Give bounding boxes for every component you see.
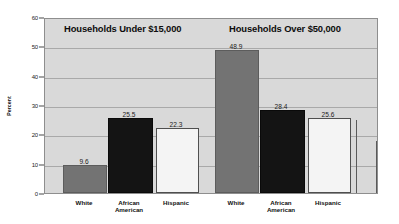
axis-separator xyxy=(376,141,377,193)
bar-right-hispanic[interactable] xyxy=(308,118,351,193)
bar-right-white[interactable] xyxy=(215,50,259,193)
category-label-left-hispanic: Hispanic xyxy=(163,199,189,206)
y-tick-label: 10 xyxy=(32,162,38,168)
gridline xyxy=(45,78,377,79)
category-text: White xyxy=(228,199,245,206)
bar-value-left-african-american: 25.5 xyxy=(123,111,136,118)
y-tick-label: 40 xyxy=(32,74,38,80)
bar-left-white[interactable] xyxy=(63,165,107,193)
panel-title-left: Households Under $15,000 xyxy=(64,23,181,34)
bar-value-right-african-american: 28.4 xyxy=(275,103,288,110)
bar-left-hispanic[interactable] xyxy=(156,128,199,193)
bar-value-left-hispanic: 22.3 xyxy=(170,121,183,128)
category-text-line1: African xyxy=(270,199,291,206)
category-label-left-white: White xyxy=(76,199,93,206)
bar-value-right-hispanic: 25.6 xyxy=(322,111,335,118)
bar-value-left-white: 9.6 xyxy=(79,158,88,165)
category-label-left-african-american: African American xyxy=(115,199,143,213)
y-axis-title: Percent xyxy=(6,96,12,116)
axis-separator xyxy=(356,120,357,193)
category-text-line2: American xyxy=(267,206,295,213)
bar-right-african-american[interactable] xyxy=(260,110,305,193)
y-tick-label: 60 xyxy=(32,15,38,21)
category-text: Hispanic xyxy=(315,199,341,206)
gridline xyxy=(45,107,377,108)
y-tick-label: 30 xyxy=(32,103,38,109)
plot-area xyxy=(44,18,378,194)
category-label-right-african-american: African American xyxy=(267,199,295,213)
category-text-line2: American xyxy=(115,206,143,213)
y-tick-label: 0 xyxy=(35,191,38,197)
category-label-right-hispanic: Hispanic xyxy=(315,199,341,206)
category-text: White xyxy=(76,199,93,206)
bar-chart-figure: 60 50 40 30 20 10 0 Percent Househo xyxy=(0,0,399,224)
y-tick-label: 50 xyxy=(32,44,38,50)
gridline xyxy=(45,48,377,49)
y-tick-label: 20 xyxy=(32,132,38,138)
category-text: Hispanic xyxy=(163,199,189,206)
bar-value-right-white: 48.9 xyxy=(230,43,243,50)
bar-left-african-american[interactable] xyxy=(108,118,153,193)
category-text-line1: African xyxy=(118,199,139,206)
y-axis: 60 50 40 30 20 10 0 Percent xyxy=(0,18,44,194)
panel-title-right: Households Over $50,000 xyxy=(229,23,341,34)
category-label-right-white: White xyxy=(228,199,245,206)
